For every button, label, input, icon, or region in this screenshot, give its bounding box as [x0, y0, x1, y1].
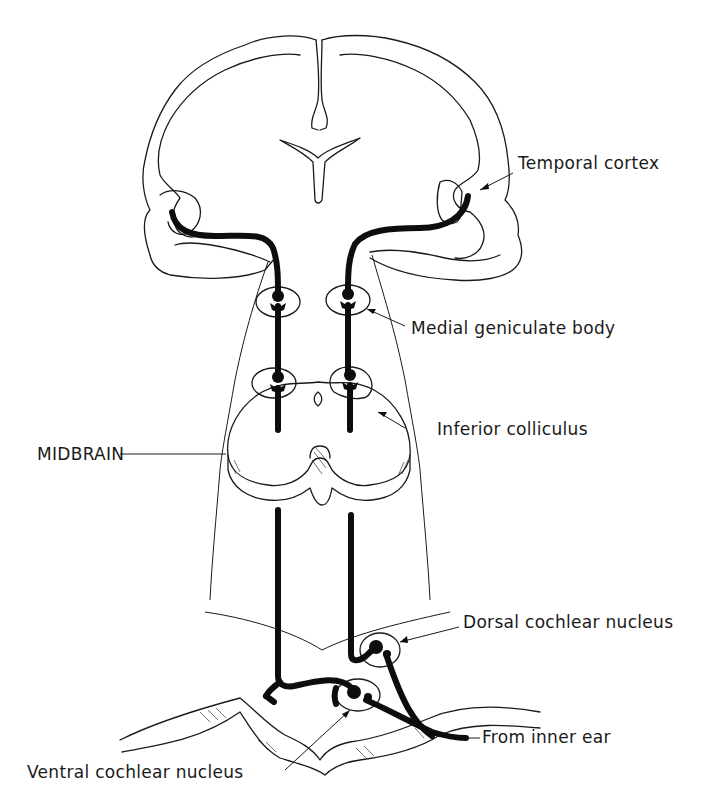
lateral-ventricle — [280, 138, 360, 203]
label-medial-geniculate-body: Medial geniculate body — [411, 318, 615, 338]
inferior-colliculus-left — [252, 368, 296, 398]
label-from-inner-ear: From inner ear — [482, 727, 611, 747]
label-midbrain: MIDBRAIN — [37, 444, 124, 464]
cerebral-aqueduct — [314, 392, 322, 406]
midbrain-section — [120, 367, 410, 505]
medulla-section — [120, 612, 540, 775]
auditory-tracts — [172, 196, 480, 738]
label-inferior-colliculus: Inferior colliculus — [437, 419, 588, 439]
label-ventral-cochlear-nucleus: Ventral cochlear nucleus — [27, 762, 244, 782]
brain-coronal-section — [143, 36, 522, 281]
label-temporal-cortex: Temporal cortex — [518, 153, 659, 173]
auditory-pathway-diagram — [0, 0, 716, 799]
brainstem — [210, 255, 430, 600]
label-dorsal-cochlear-nucleus: Dorsal cochlear nucleus — [463, 612, 673, 632]
